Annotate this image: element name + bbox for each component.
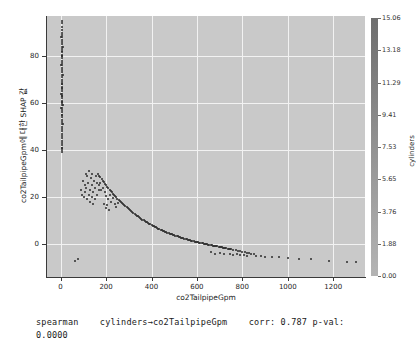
scatter-point	[84, 184, 86, 186]
scatter-point	[91, 184, 93, 186]
scatter-point	[88, 194, 90, 196]
scatter-point	[223, 253, 225, 255]
x-axis-line	[46, 277, 366, 278]
scatter-point	[61, 116, 63, 118]
caption-line-1: spearman cylinders→co2TailpipeGpm corr: …	[36, 317, 344, 327]
scatter-point	[236, 253, 238, 255]
scatter-point	[61, 95, 63, 97]
scatter-point	[328, 260, 330, 262]
scatter-point	[61, 144, 63, 146]
scatter-point	[62, 74, 64, 76]
colorbar-tick-mark	[378, 50, 381, 51]
colorbar-gradient	[371, 18, 378, 276]
scatter-point	[92, 203, 94, 205]
y-tick-mark	[42, 56, 46, 57]
scatter-point	[61, 130, 63, 132]
scatter-point	[61, 90, 63, 92]
scatter-point	[110, 201, 112, 203]
colorbar-tick-mark	[378, 244, 381, 245]
x-tick-mark	[333, 277, 334, 281]
y-tick-mark	[42, 197, 46, 198]
scatter-point	[103, 203, 105, 205]
scatter-point	[114, 203, 116, 205]
scatter-point	[61, 22, 63, 24]
x-tick-label: 600	[177, 283, 217, 292]
scatter-point	[62, 123, 64, 125]
scatter-point	[83, 196, 85, 198]
scatter-point	[255, 255, 257, 257]
y-axis-label: co2TailpipeGpm에 대한 SHAP 값	[17, 46, 28, 246]
scatter-point	[93, 180, 95, 182]
x-tick-label: 200	[86, 283, 126, 292]
x-tick-mark	[288, 277, 289, 281]
scatter-point	[109, 194, 111, 196]
x-tick-mark	[242, 277, 243, 281]
scatter-point	[86, 175, 88, 177]
scatter-point	[91, 173, 93, 175]
y-axis-line	[46, 16, 47, 278]
colorbar-tick-label: 11.29	[382, 79, 401, 87]
x-tick-label: 800	[222, 283, 262, 292]
x-axis-label: co2TailpipeGpm	[47, 293, 365, 302]
scatter-point	[61, 29, 63, 31]
scatter-point	[74, 260, 76, 262]
scatter-point	[310, 258, 312, 260]
scatter-point	[108, 209, 110, 211]
scatter-point	[61, 83, 63, 85]
scatter-point	[85, 187, 87, 189]
x-tick-mark	[152, 277, 153, 281]
colorbar-tick-label: 5.65	[382, 175, 396, 183]
scatter-point	[219, 252, 221, 254]
scatter-point	[298, 258, 300, 260]
scatter-point	[89, 201, 91, 203]
scatter-point	[214, 253, 216, 255]
scatter-point	[84, 191, 86, 193]
scatter-point	[88, 170, 90, 172]
scatter-point	[239, 254, 241, 256]
scatter-point	[80, 189, 82, 191]
colorbar-tick-label: 15.06	[382, 14, 401, 22]
scatter-point	[61, 97, 63, 99]
x-tick-mark	[61, 277, 62, 281]
scatter-point	[61, 147, 63, 149]
colorbar-tick-mark	[378, 18, 381, 19]
y-tick-mark	[42, 103, 46, 104]
shap-dependence-figure: 020040060080010001200 020406080 co2Tailp…	[0, 0, 420, 362]
colorbar-label: cylinders	[408, 106, 416, 196]
gridline-horizontal	[47, 150, 365, 151]
scatter-point	[89, 189, 91, 191]
colorbar-tick-label: 9.41	[382, 111, 396, 119]
scatter-point	[95, 175, 97, 177]
scatter-point	[105, 195, 107, 197]
scatter-point	[210, 251, 212, 253]
colorbar-tick-mark	[378, 147, 381, 148]
scatter-point	[61, 76, 63, 78]
scatter-point	[271, 256, 273, 258]
scatter-point	[115, 206, 117, 208]
scatter-point	[278, 256, 280, 258]
caption-line-2: 0.0000	[36, 330, 68, 340]
x-tick-label: 0	[41, 283, 81, 292]
scatter-point	[90, 177, 92, 179]
colorbar-tick-label: 1.88	[382, 240, 396, 248]
scatter-point	[105, 207, 107, 209]
scatter-point	[264, 256, 266, 258]
gridline-horizontal	[47, 103, 365, 104]
scatter-point	[77, 258, 79, 260]
scatter-point	[61, 114, 63, 116]
scatter-point	[229, 253, 231, 255]
scatter-point	[94, 187, 96, 189]
scatter-point	[346, 261, 348, 263]
scatter-point	[62, 46, 64, 48]
x-tick-label: 400	[132, 283, 172, 292]
scatter-point	[86, 198, 88, 200]
colorbar-tick-label: 7.53	[382, 143, 396, 151]
scatter-point	[260, 255, 262, 257]
scatter-point	[92, 191, 94, 193]
colorbar-tick-mark	[378, 212, 381, 213]
scatter-point	[232, 249, 234, 251]
colorbar-tick-mark	[378, 179, 381, 180]
scatter-point	[91, 196, 93, 198]
x-tick-mark	[197, 277, 198, 281]
plot-area	[47, 16, 365, 277]
